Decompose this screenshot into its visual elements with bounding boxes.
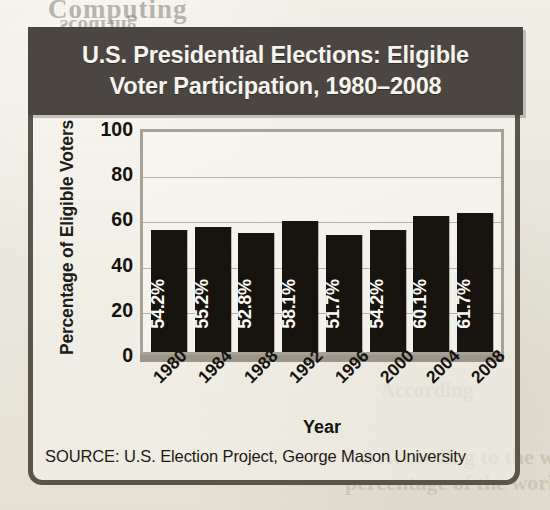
- chart-body: Percentage of Eligible Voters 1008060402…: [33, 115, 515, 480]
- bar-column: 60.1%: [413, 132, 449, 352]
- x-axis-tick-labels: 19801984198819921996200020042008: [140, 365, 504, 425]
- bar-value-label: 61.7%: [454, 279, 475, 329]
- bar-value-label: 60.1%: [410, 279, 431, 329]
- bar[interactable]: 54.2%: [151, 230, 187, 352]
- x-axis-title: Year: [140, 417, 504, 438]
- bar-column: 54.2%: [151, 132, 187, 352]
- y-tick-label: 40: [81, 253, 133, 276]
- bar[interactable]: 51.7%: [326, 235, 362, 352]
- bar-value-label: 55.2%: [192, 279, 213, 329]
- source-note: SOURCE: U.S. Election Project, George Ma…: [45, 447, 466, 466]
- bar[interactable]: 58.1%: [282, 221, 318, 352]
- y-tick-label: 0: [81, 344, 133, 367]
- bar-column: 52.8%: [238, 132, 274, 352]
- plot-area: 54.2%55.2%52.8%58.1%51.7%54.2%60.1%61.7%: [140, 129, 504, 355]
- bar-column: 61.7%: [457, 132, 493, 352]
- y-tick-label: 80: [81, 163, 133, 186]
- bar-column: 51.7%: [326, 132, 362, 352]
- bar-column: 58.1%: [282, 132, 318, 352]
- bar-series: 54.2%55.2%52.8%58.1%51.7%54.2%60.1%61.7%: [143, 132, 501, 352]
- bar-value-label: 58.1%: [279, 279, 300, 329]
- y-axis-tick-labels: 100806040200: [81, 129, 133, 355]
- y-tick-label: 60: [81, 208, 133, 231]
- bar-value-label: 51.7%: [323, 279, 344, 329]
- chart-title-line-1: U.S. Presidential Elections: Eligible: [82, 40, 469, 71]
- y-axis-title: Percentage of Eligible Voters: [57, 108, 78, 368]
- bar[interactable]: 61.7%: [457, 213, 493, 352]
- y-tick-label: 20: [81, 298, 133, 321]
- bar-column: 55.2%: [195, 132, 231, 352]
- chart-title-line-2: Voter Participation, 1980–2008: [110, 71, 442, 102]
- bar[interactable]: 55.2%: [195, 227, 231, 352]
- bar[interactable]: 60.1%: [413, 216, 449, 352]
- bar-value-label: 54.2%: [367, 279, 388, 329]
- bar-value-label: 54.2%: [148, 279, 169, 329]
- bar-column: 54.2%: [370, 132, 406, 352]
- bar-value-label: 52.8%: [235, 279, 256, 329]
- y-tick-label: 100: [81, 118, 133, 141]
- chart-title-banner: U.S. Presidential Elections: Eligible Vo…: [28, 27, 523, 115]
- bar[interactable]: 54.2%: [370, 230, 406, 352]
- bar[interactable]: 52.8%: [238, 233, 274, 352]
